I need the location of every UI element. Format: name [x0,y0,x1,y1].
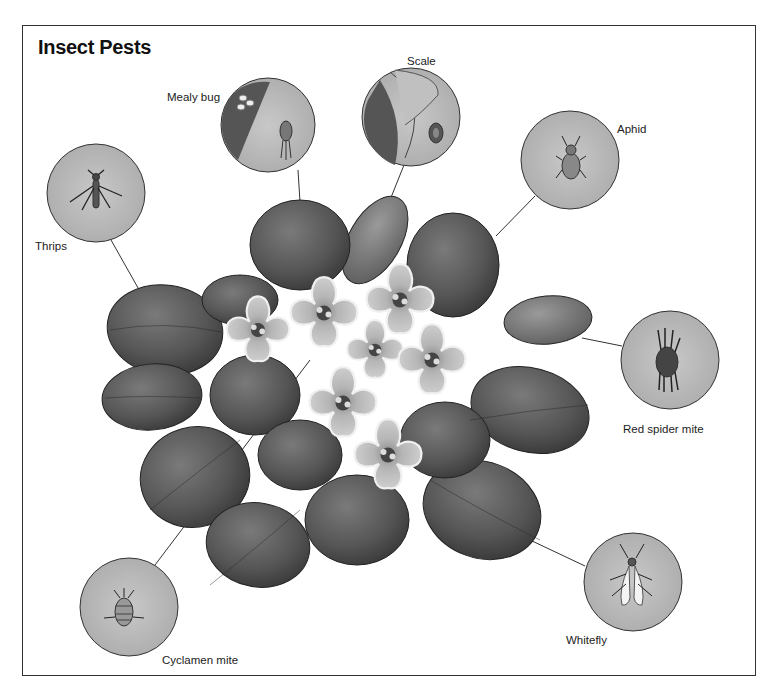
label-aphid: Aphid [617,123,646,135]
label-red-spider-mite: Red spider mite [623,423,704,435]
label-thrips: Thrips [35,240,67,252]
thrips-callout-icon [47,144,145,242]
label-scale: Scale [407,55,436,67]
plant-illustration [0,0,767,695]
label-mealy-bug: Mealy bug [167,91,220,103]
red-spider-mite-callout-icon [621,311,719,409]
label-cyclamen-mite: Cyclamen mite [162,654,238,666]
mealy-bug-callout-icon [221,78,315,172]
label-whitefly: Whitefly [566,634,607,646]
scale-callout-icon [362,68,460,166]
whitefly-callout-icon [584,533,682,631]
aphid-callout-icon [521,111,619,209]
cyclamen-mite-callout-icon [80,558,178,656]
